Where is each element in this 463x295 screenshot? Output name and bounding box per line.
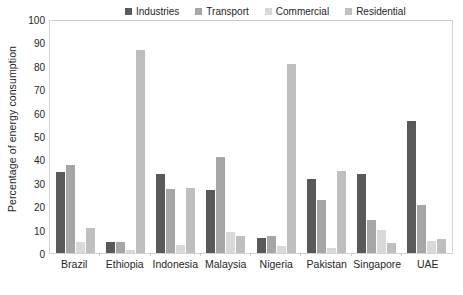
bar	[277, 246, 286, 253]
x-axis-tick-label: Malaysia	[201, 258, 252, 276]
legend-swatch-icon	[195, 8, 202, 15]
bar-group	[402, 21, 452, 253]
legend-item[interactable]: Industries	[125, 6, 179, 17]
bar	[166, 189, 175, 253]
x-axis-tickmark	[150, 253, 151, 256]
bar	[307, 179, 316, 253]
y-axis-tick-label: 30	[34, 178, 45, 189]
bar	[156, 174, 165, 253]
legend-item-label: Commercial	[276, 6, 329, 17]
x-axis-tickmark	[250, 253, 251, 256]
x-axis-tick-label: Indonesia	[150, 258, 201, 276]
legend-item-label: Residential	[356, 6, 405, 17]
bar-groups-container	[50, 21, 452, 253]
bar	[86, 228, 95, 253]
legend-swatch-icon	[125, 8, 132, 15]
x-axis-tickmark	[99, 253, 100, 256]
x-axis-tick-label: Ethiopia	[100, 258, 151, 276]
y-axis-tick-labels: 0102030405060708090100	[20, 14, 47, 254]
bar	[267, 236, 276, 253]
bar-group	[100, 21, 150, 253]
x-axis-tick-label: Nigeria	[251, 258, 302, 276]
x-axis-tick-label: UAE	[403, 258, 454, 276]
x-axis-tick-label: Singapore	[352, 258, 403, 276]
legend-item[interactable]: Residential	[345, 6, 405, 17]
y-axis-tick-label: 100	[28, 15, 45, 26]
legend-item-label: Transport	[206, 6, 248, 17]
x-axis-tickmark	[351, 253, 352, 256]
bar	[236, 236, 245, 253]
bar	[437, 239, 446, 253]
bar	[367, 220, 376, 253]
y-axis-tick-label: 90	[34, 38, 45, 49]
plot-area	[49, 20, 453, 254]
bar	[56, 172, 65, 253]
bar	[76, 242, 85, 253]
bar	[257, 238, 266, 253]
bar	[387, 243, 396, 253]
y-axis-tick-label: 70	[34, 85, 45, 96]
x-axis-tick-label: Pakistan	[302, 258, 353, 276]
bar	[176, 245, 185, 253]
bar	[66, 165, 75, 253]
bar	[106, 242, 115, 253]
legend-swatch-icon	[265, 8, 272, 15]
bar-group	[352, 21, 402, 253]
y-axis-tick-label: 60	[34, 108, 45, 119]
y-axis-title-text: Percentage of energy consumption	[6, 46, 18, 212]
bar-group	[301, 21, 351, 253]
legend-item[interactable]: Commercial	[265, 6, 329, 17]
bar-group	[50, 21, 100, 253]
bar	[216, 157, 225, 253]
x-axis-tickmark	[401, 253, 402, 256]
y-axis-title: Percentage of energy consumption	[2, 0, 22, 258]
x-axis-tickmark	[300, 253, 301, 256]
bar	[357, 174, 366, 253]
bar-group	[151, 21, 201, 253]
x-axis-tick-labels: BrazilEthiopiaIndonesiaMalaysiaNigeriaPa…	[49, 258, 453, 276]
legend-item[interactable]: Transport	[195, 6, 248, 17]
bar	[337, 171, 346, 253]
bar	[287, 64, 296, 253]
bar	[377, 230, 386, 253]
bar	[206, 190, 215, 253]
y-axis-tick-label: 50	[34, 132, 45, 143]
bar	[136, 50, 145, 253]
bar-group	[201, 21, 251, 253]
chart-legend: IndustriesTransportCommercialResidential	[125, 6, 406, 17]
bar	[407, 121, 416, 253]
legend-swatch-icon	[345, 8, 352, 15]
y-axis-tick-label: 20	[34, 202, 45, 213]
x-axis-tickmark	[200, 253, 201, 256]
bar	[116, 242, 125, 253]
bar	[327, 248, 336, 253]
bar	[317, 200, 326, 253]
bar	[417, 205, 426, 253]
x-axis-tick-label: Brazil	[49, 258, 100, 276]
y-axis-tick-label: 10	[34, 225, 45, 236]
bar-chart: Percentage of energy consumption 0102030…	[0, 0, 463, 295]
bar	[186, 188, 195, 253]
legend-item-label: Industries	[136, 6, 179, 17]
bar	[427, 241, 436, 253]
bar	[126, 250, 135, 253]
y-axis-tick-label: 40	[34, 155, 45, 166]
y-axis-tick-label: 0	[39, 249, 45, 260]
bar-group	[251, 21, 301, 253]
bar	[226, 232, 235, 253]
y-axis-tick-label: 80	[34, 61, 45, 72]
